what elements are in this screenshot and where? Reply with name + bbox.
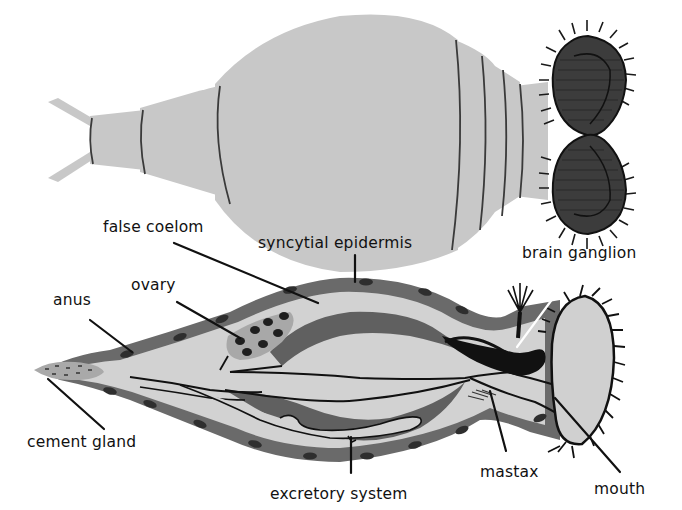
rotifer-figure: false coelom syncytial epidermis brain g… [0,0,682,510]
label-cement-gland: cement gland [27,433,136,451]
label-anus: anus [53,291,91,309]
foot-segment [90,110,145,170]
corona-disc-section [552,296,615,444]
anterior-rings [455,40,520,250]
posterior-trunk [140,86,220,196]
label-mouth: mouth [594,480,645,498]
label-brain-ganglion: brain ganglion [522,244,637,262]
label-syncytial-epidermis: syncytial epidermis [258,234,412,252]
leader-anus [90,320,132,352]
label-false-coelom: false coelom [103,218,204,236]
corona [539,20,636,249]
label-ovary: ovary [131,276,176,294]
label-excretory-system: excretory system [270,485,408,503]
foot-toe-lower [48,152,92,182]
foot-toe-upper [48,98,92,126]
label-mastax: mastax [480,463,539,481]
neck [515,82,548,200]
